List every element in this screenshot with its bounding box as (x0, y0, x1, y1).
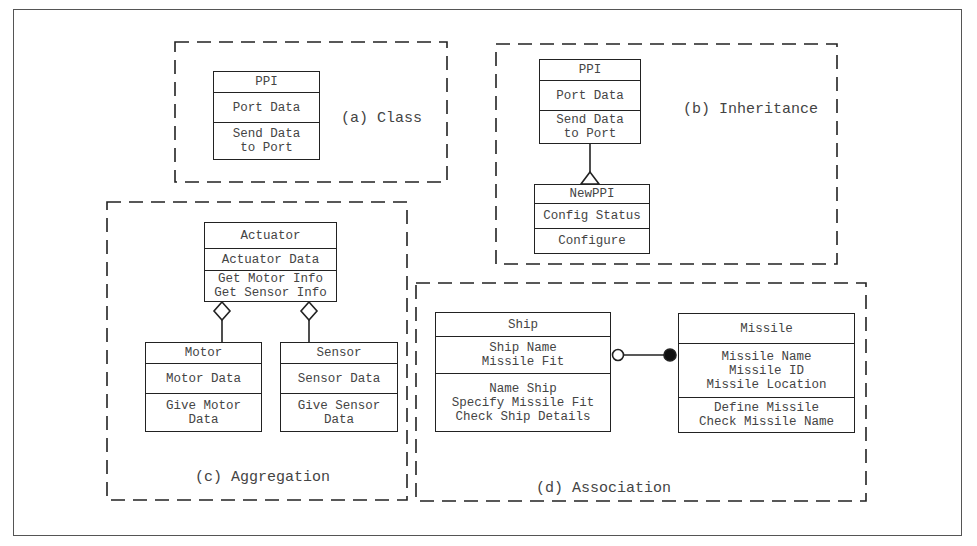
aggregation-diamond-icon (214, 302, 230, 320)
class-attributes: Ship Name Missile Fit (436, 336, 610, 373)
class-name: Ship (436, 313, 610, 336)
class-newppi: NewPPI Config Status Configure (534, 184, 650, 254)
caption-association: (d) Association (536, 480, 671, 497)
class-name: Actuator (205, 223, 336, 248)
class-attributes: Config Status (535, 203, 649, 228)
class-name: PPI (540, 60, 640, 80)
inheritance-triangle-icon (581, 172, 599, 184)
class-operations: Define Missile Check Missile Name (679, 397, 854, 432)
class-operations: Send Data to Port (214, 122, 319, 159)
class-ppi-parent: PPI Port Data Send Data to Port (539, 59, 641, 144)
class-actuator: Actuator Actuator Data Get Motor Info Ge… (204, 222, 337, 302)
class-attributes: Missile Name Missile ID Missile Location (679, 343, 854, 397)
class-name: Motor (146, 343, 261, 363)
class-operations: Get Motor Info Get Sensor Info (205, 270, 336, 301)
aggregation-diamond-icon (301, 302, 317, 320)
caption-inheritance: (b) Inheritance (683, 101, 818, 118)
class-attributes: Actuator Data (205, 248, 336, 270)
class-attributes: Sensor Data (281, 363, 397, 393)
filled-circle-icon (664, 349, 676, 361)
class-name: NewPPI (535, 185, 649, 203)
class-operations: Give Sensor Data (281, 393, 397, 431)
diagram-connectors (0, 0, 977, 546)
class-motor: Motor Motor Data Give Motor Data (145, 342, 262, 432)
open-circle-icon (613, 350, 624, 361)
caption-class: (a) Class (341, 110, 422, 127)
class-name: Missile (679, 314, 854, 343)
class-ship: Ship Ship Name Missile Fit Name Ship Spe… (435, 312, 611, 432)
caption-aggregation: (c) Aggregation (195, 469, 330, 486)
class-operations: Give Motor Data (146, 393, 261, 431)
class-operations: Configure (535, 228, 649, 253)
class-attributes: Port Data (540, 80, 640, 110)
class-operations: Send Data to Port (540, 110, 640, 143)
class-ppi: PPI Port Data Send Data to Port (213, 71, 320, 160)
class-missile: Missile Missile Name Missile ID Missile … (678, 313, 855, 433)
class-attributes: Port Data (214, 92, 319, 122)
class-sensor: Sensor Sensor Data Give Sensor Data (280, 342, 398, 432)
class-operations: Name Ship Specify Missile Fit Check Ship… (436, 373, 610, 431)
class-attributes: Motor Data (146, 363, 261, 393)
class-name: PPI (214, 72, 319, 92)
class-name: Sensor (281, 343, 397, 363)
